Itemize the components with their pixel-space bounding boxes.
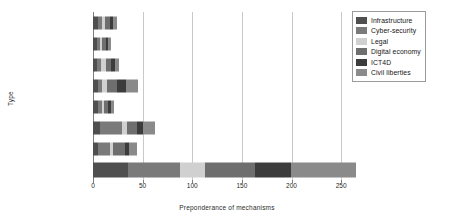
- legend-label: Legal: [371, 38, 388, 45]
- chart-legend: InfrastructureCyber-securityLegalDigital…: [352, 11, 426, 82]
- bar-segment[interactable]: [108, 37, 111, 50]
- bar-segment[interactable]: [205, 162, 255, 177]
- legend-swatch-icon: [356, 38, 367, 45]
- stacked-bar[interactable]: [93, 121, 155, 134]
- x-tick-label: 50: [139, 182, 146, 189]
- bar-segment[interactable]: [113, 16, 117, 29]
- stacked-bar[interactable]: [93, 37, 111, 50]
- legend-swatch-icon: [356, 59, 367, 66]
- chart-row: Specialised bodies: [93, 54, 361, 75]
- chart-row: Toolkits/model laws: [93, 138, 361, 159]
- legend-item[interactable]: Cyber-security: [356, 26, 421, 37]
- legend-item[interactable]: Civil liberties: [356, 68, 421, 79]
- legend-swatch-icon: [356, 48, 367, 55]
- stacked-bar[interactable]: [93, 100, 114, 113]
- bar-segment[interactable]: [129, 142, 137, 155]
- chart-row: Guiding principles: [93, 117, 361, 138]
- stacked-bar[interactable]: [93, 142, 137, 155]
- chart-row: TOTAL: [93, 159, 361, 180]
- bar-segment[interactable]: [117, 79, 126, 92]
- legend-swatch-icon: [356, 27, 367, 34]
- chart-row: Judgements, directives: [93, 33, 361, 54]
- bar-segment[interactable]: [93, 121, 100, 134]
- legend-item[interactable]: ICT4D: [356, 57, 421, 68]
- x-tick-label: 200: [286, 182, 297, 189]
- bar-segment[interactable]: [128, 162, 181, 177]
- x-axis-title: Preponderance of mechanisms: [93, 204, 361, 211]
- stacked-bar[interactable]: [93, 162, 356, 177]
- bar-segment[interactable]: [291, 162, 356, 177]
- x-tick-label: 250: [336, 182, 347, 189]
- bar-segment[interactable]: [93, 162, 128, 177]
- legend-label: ICT4D: [371, 59, 391, 66]
- bar-segment[interactable]: [126, 79, 138, 92]
- bar-segment[interactable]: [180, 162, 205, 177]
- x-tick-label: 150: [236, 182, 247, 189]
- legend-item[interactable]: Legal: [356, 36, 421, 47]
- bar-segment[interactable]: [111, 100, 114, 113]
- legend-label: Civil liberties: [371, 69, 411, 76]
- bar-segment[interactable]: [115, 58, 119, 71]
- legend-swatch-icon: [356, 69, 367, 76]
- y-axis-title: Type: [7, 79, 14, 119]
- stacked-bar[interactable]: [93, 79, 138, 92]
- legend-label: Infrastructure: [371, 17, 412, 24]
- plot-area: Treaties, conventionsJudgements, directi…: [93, 12, 361, 180]
- bar-segment[interactable]: [127, 121, 137, 134]
- bar-segment[interactable]: [255, 162, 292, 177]
- bar-segment[interactable]: [143, 121, 155, 134]
- stacked-bar-chart: Type Preponderance of mechanisms Treatie…: [0, 0, 450, 220]
- legend-item[interactable]: Infrastructure: [356, 15, 421, 26]
- x-tick-label: 0: [91, 182, 95, 189]
- stacked-bar[interactable]: [93, 16, 117, 29]
- chart-row: Monitoring/benchmarking: [93, 96, 361, 117]
- legend-label: Cyber-security: [371, 27, 416, 34]
- stacked-bar[interactable]: [93, 58, 119, 71]
- chart-row: Global agendas: [93, 75, 361, 96]
- legend-label: Digital economy: [371, 48, 421, 55]
- legend-item[interactable]: Digital economy: [356, 47, 421, 58]
- x-tick-label: 100: [187, 182, 198, 189]
- bar-segment[interactable]: [107, 79, 117, 92]
- bar-segment[interactable]: [98, 142, 110, 155]
- legend-swatch-icon: [356, 17, 367, 24]
- bar-segment[interactable]: [113, 142, 125, 155]
- bar-segment[interactable]: [100, 121, 122, 134]
- chart-row: Treaties, conventions: [93, 12, 361, 33]
